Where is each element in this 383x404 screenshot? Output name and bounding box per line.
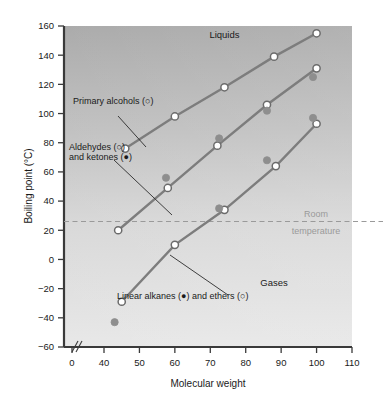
y-tick-label: 160	[38, 20, 54, 31]
x-tick-label: 40	[99, 357, 110, 368]
data-point	[272, 162, 279, 169]
data-point	[111, 319, 118, 326]
y-tick-label: 140	[38, 50, 54, 61]
y-tick-label: 80	[43, 137, 54, 148]
data-point	[221, 84, 228, 91]
data-point	[162, 174, 169, 181]
x-tick-label: 70	[205, 357, 216, 368]
series-annotation: Linear alkanes (●) and ethers (○)	[117, 291, 248, 301]
y-tick-label: 0	[49, 254, 54, 265]
data-point	[171, 113, 178, 120]
data-point	[171, 241, 178, 248]
data-point	[309, 114, 316, 121]
x-axis-ticks: 0405060708090100110	[69, 347, 359, 368]
data-point	[270, 53, 277, 60]
x-tick-label: 50	[134, 357, 145, 368]
y-tick-label: −20	[38, 283, 54, 294]
data-point	[263, 107, 270, 114]
series-annotation: and ketones (●)	[69, 152, 132, 162]
data-point	[263, 157, 270, 164]
data-point	[216, 135, 223, 142]
x-tick-label: 100	[309, 357, 325, 368]
y-tick-label: −60	[38, 341, 54, 352]
zone-label: Liquids	[209, 29, 239, 40]
boiling-point-scatter-chart: −60−40−20020406080100120140160 040506070…	[0, 0, 383, 404]
x-tick-label: 0	[69, 357, 74, 368]
y-axis-title: Boiling point (°C)	[23, 148, 34, 223]
y-tick-label: −40	[38, 312, 54, 323]
x-tick-label: 60	[170, 357, 181, 368]
y-tick-label: 120	[38, 79, 54, 90]
x-tick-label: 110	[344, 357, 359, 368]
data-point	[313, 65, 320, 72]
data-point	[164, 184, 171, 191]
data-point	[313, 30, 320, 37]
x-tick-label: 80	[240, 357, 251, 368]
series-annotation: Primary alcohols (○)	[73, 96, 153, 106]
chart-figure: −60−40−20020406080100120140160 040506070…	[0, 0, 383, 404]
y-axis-ticks: −60−40−20020406080100120140160	[38, 20, 64, 352]
y-tick-label: 20	[43, 225, 54, 236]
y-tick-label: 60	[43, 166, 54, 177]
room-temperature-label: Room	[304, 209, 328, 219]
data-point	[214, 142, 221, 149]
x-tick-label: 90	[276, 357, 287, 368]
x-axis-title: Molecular weight	[170, 378, 245, 389]
room-temperature-label: temperature	[292, 226, 341, 236]
zone-label: Gases	[260, 277, 288, 288]
data-point	[216, 205, 223, 212]
data-point	[115, 227, 122, 234]
series-annotation: Aldehydes (○)	[69, 142, 125, 152]
y-tick-label: 100	[38, 108, 54, 119]
data-point	[309, 73, 316, 80]
y-tick-label: 40	[43, 195, 54, 206]
